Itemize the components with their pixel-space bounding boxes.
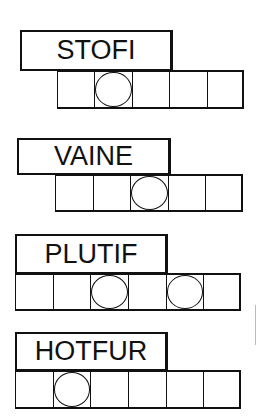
answer-cell[interactable] [207, 72, 244, 109]
answer-cells [15, 370, 241, 409]
scrambled-word-label: STOFI [20, 30, 173, 71]
answer-cell-circled[interactable] [166, 275, 204, 311]
answer-cell[interactable] [203, 372, 241, 409]
answer-cells [55, 174, 243, 212]
answer-cell[interactable] [57, 72, 94, 109]
answer-cell[interactable] [132, 72, 169, 109]
answer-cell[interactable] [128, 372, 166, 409]
circle-marker-icon [95, 72, 131, 107]
answer-cell[interactable] [93, 176, 131, 212]
answer-cell[interactable] [203, 275, 241, 311]
circle-marker-icon [54, 372, 91, 407]
answer-cell[interactable] [169, 72, 206, 109]
circle-marker-icon [91, 275, 128, 309]
answer-cell[interactable] [168, 176, 206, 212]
answer-cell[interactable] [166, 372, 204, 409]
answer-cell-circled[interactable] [94, 72, 131, 109]
answer-cell[interactable] [53, 275, 91, 311]
scrambled-word-label: VAINE [17, 138, 171, 175]
answer-cells [15, 273, 241, 311]
answer-cell[interactable] [15, 275, 53, 311]
answer-cell-circled[interactable] [130, 176, 168, 212]
circle-marker-icon [131, 176, 168, 210]
answer-cell[interactable] [55, 176, 93, 212]
answer-cell[interactable] [128, 275, 166, 311]
answer-cell[interactable] [205, 176, 243, 212]
scrambled-word-label: PLUTIF [15, 234, 168, 274]
answer-cell-circled[interactable] [90, 275, 128, 311]
circle-marker-icon [167, 275, 204, 309]
answer-cell[interactable] [90, 372, 128, 409]
scrambled-word-label: HOTFUR [15, 332, 168, 371]
scan-artifact-line [255, 305, 256, 345]
answer-cells [57, 70, 244, 109]
answer-cell-circled[interactable] [53, 372, 91, 409]
answer-cell[interactable] [15, 372, 53, 409]
